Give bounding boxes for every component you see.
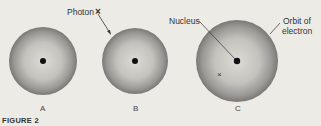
panel-label-b: B xyxy=(133,105,138,113)
photon-label: Photon xyxy=(67,8,94,17)
panel-label-a: A xyxy=(40,105,45,113)
orbit-label-line1: Orbit of xyxy=(283,17,311,26)
figure-caption: FIGURE 2 xyxy=(2,116,39,125)
electron-x-icon: × xyxy=(217,71,222,79)
atom-a xyxy=(9,27,77,95)
orbit-pointer-line xyxy=(270,23,280,34)
diagram-canvas xyxy=(0,0,321,126)
photon-arrow-head xyxy=(107,30,111,35)
nucleus-a xyxy=(40,58,46,64)
nucleus-label: Nucleus xyxy=(169,17,200,26)
atom-c xyxy=(196,20,278,102)
atom-b xyxy=(102,28,168,94)
panel-label-c: C xyxy=(235,105,241,113)
orbit-label-line2: electron xyxy=(282,27,312,36)
photon-x-icon: × xyxy=(95,7,101,17)
nucleus-b xyxy=(132,58,138,64)
